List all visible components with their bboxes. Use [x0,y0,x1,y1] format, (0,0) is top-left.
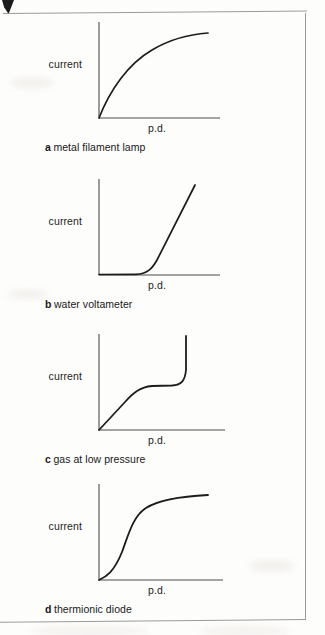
chart-c-y-axis-label: current [6,370,82,382]
figure-d-caption: dthermionic diode [45,603,132,615]
figure-b-caption-text: water voltameter [54,298,132,310]
figure-a-caption: ametal filament lamp [45,141,145,153]
chart-b-x-axis-label: p.d. [148,279,166,291]
figure-c-gas-at-low-pressure: current p.d. cgas at low pressure [0,330,305,470]
chart-d-plot-area [48,480,238,596]
chart-c-svg [48,330,238,446]
chart-b-curve [99,185,195,275]
figure-c-caption-text: gas at low pressure [53,453,145,465]
figure-d-thermionic-diode: current p.d. dthermionic diode [0,480,305,620]
figure-a-caption-text: metal filament lamp [53,141,145,153]
scan-smudge [200,627,290,635]
chart-c-plot-area [48,330,238,446]
figure-d-letter: d [45,603,51,615]
chart-b-svg [48,175,238,291]
scan-corner-artifact-icon [2,0,14,14]
chart-d-x-axis-label: p.d. [148,584,166,596]
figure-b-caption: bwater voltameter [45,298,132,310]
chart-a-x-axis-label: p.d. [148,122,166,134]
chart-c-x-axis-label: p.d. [148,434,166,446]
page-frame-right-rule [305,13,306,620]
chart-c-curve [99,336,186,430]
scan-smudge [30,627,150,635]
chart-a-svg [48,18,238,134]
chart-a-y-axis-label: current [6,58,82,70]
chart-d-svg [48,480,238,596]
figure-b-water-voltameter: current p.d. bwater voltameter [0,175,305,315]
figure-a-letter: a [45,141,51,153]
chart-d-curve [99,495,208,580]
figure-c-letter: c [45,453,51,465]
figure-c-caption: cgas at low pressure [45,453,145,465]
chart-b-plot-area [48,175,238,291]
scanned-page: current p.d. ametal filament lamp curren… [0,0,325,635]
chart-b-y-axis-label: current [6,215,82,227]
chart-a-plot-area [48,18,238,134]
chart-d-y-axis-label: current [6,520,82,532]
figure-a-metal-filament-lamp: current p.d. ametal filament lamp [0,18,305,158]
page-frame-top-rule [3,11,307,14]
chart-a-curve [99,33,208,118]
figure-b-letter: b [45,298,51,310]
figure-d-caption-text: thermionic diode [54,603,132,615]
